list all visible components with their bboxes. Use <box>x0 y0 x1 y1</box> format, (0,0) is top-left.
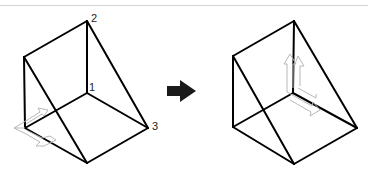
right-arrow-icon <box>167 80 196 102</box>
diagram-canvas <box>0 0 368 176</box>
vertex-label-1: 1 <box>89 82 95 93</box>
vertex-label-3: 3 <box>152 121 158 132</box>
wedge-after <box>233 21 357 164</box>
ucs-icon-after <box>284 54 320 116</box>
vertex-label-2: 2 <box>91 13 97 24</box>
wedge-before <box>24 21 148 163</box>
